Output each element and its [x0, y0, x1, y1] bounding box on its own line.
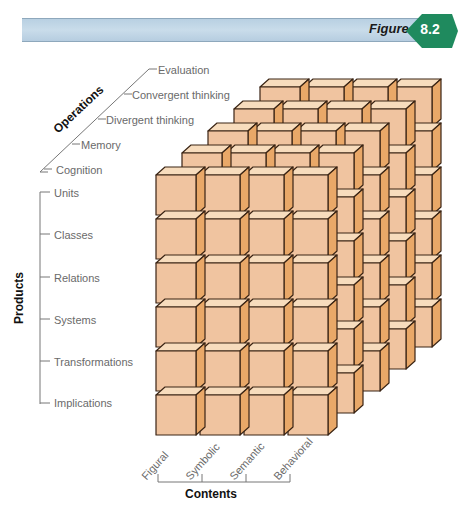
operation-label-divergent: Divergent thinking	[106, 114, 194, 126]
structure-of-intellect-cube	[0, 0, 460, 514]
product-label-units: Units	[54, 187, 79, 199]
contents-axis-title: Contents	[185, 487, 237, 501]
operation-label-memory: Memory	[81, 139, 121, 151]
operation-label-cognition: Cognition	[56, 164, 102, 176]
product-label-transformations: Transformations	[54, 356, 133, 368]
product-label-systems: Systems	[54, 314, 96, 326]
product-label-classes: Classes	[54, 229, 93, 241]
product-label-relations: Relations	[54, 272, 100, 284]
operation-label-evaluation: Evaluation	[158, 64, 209, 76]
products-axis-title: Products	[12, 272, 26, 324]
product-label-implications: Implications	[54, 397, 112, 409]
operation-label-convergent: Convergent thinking	[132, 89, 230, 101]
